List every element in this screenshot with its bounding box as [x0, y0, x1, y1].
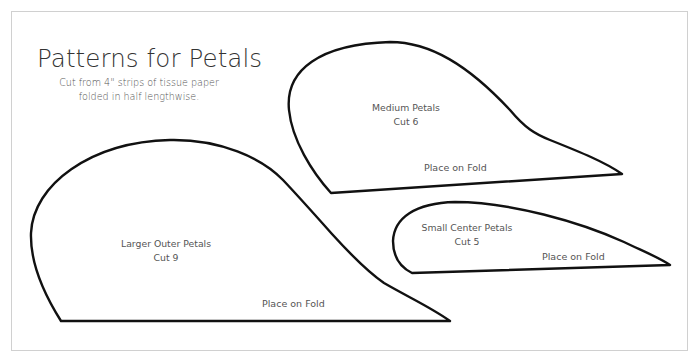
instructions-line-1: Cut from 4" strips of tissue paper: [44, 76, 234, 90]
small-petal-cut: Cut 5: [416, 235, 518, 249]
large-petal-outline: [31, 140, 450, 321]
large-petal-cut: Cut 9: [113, 251, 219, 265]
medium-petal-label: Medium Petals Cut 6: [366, 101, 446, 129]
small-petal-name: Small Center Petals: [416, 221, 518, 235]
page-title: Patterns for Petals: [37, 44, 262, 73]
large-petal-label: Larger Outer Petals Cut 9: [113, 237, 219, 265]
small-petal-fold-label: Place on Fold: [542, 251, 605, 262]
large-petal-name: Larger Outer Petals: [113, 237, 219, 251]
small-petal-label: Small Center Petals Cut 5: [416, 221, 518, 249]
instructions: Cut from 4" strips of tissue paper folde…: [44, 76, 234, 104]
medium-petal-name: Medium Petals: [366, 101, 446, 115]
large-petal-fold-label: Place on Fold: [262, 298, 325, 309]
medium-petal-cut: Cut 6: [366, 115, 446, 129]
instructions-line-2: folded in half lengthwise.: [44, 90, 234, 104]
medium-petal-fold-label: Place on Fold: [424, 162, 487, 173]
